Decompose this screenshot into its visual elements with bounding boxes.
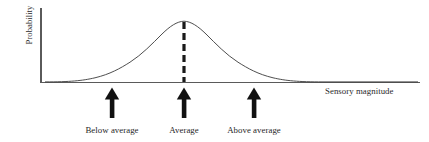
marker-label-below-average: Below average (85, 125, 138, 135)
marker-arrow-below-average (105, 88, 119, 119)
bell-curve-path (45, 21, 418, 82)
marker-label-above-average: Above average (227, 125, 281, 135)
marker-label-average: Average (169, 125, 199, 135)
marker-arrow-average (177, 88, 191, 119)
marker-arrow-above-average (247, 88, 261, 119)
x-axis-label: Sensory magnitude (325, 86, 394, 96)
probability-distribution-figure: Probability Sensory magnitude Below aver… (0, 0, 429, 142)
plot-canvas (0, 0, 429, 142)
y-axis-label: Probability (24, 0, 34, 70)
